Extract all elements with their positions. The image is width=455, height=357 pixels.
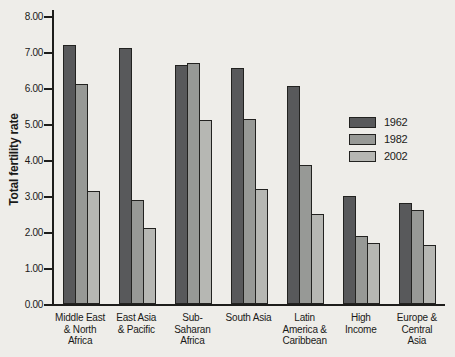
y-tick-label: 1.00 [13,263,43,275]
bar-2002-category-3 [199,120,212,304]
x-category-label-7: Europe &CentralAsia [389,312,445,347]
bar-2002-category-4 [255,189,268,304]
y-tick-label: 8.00 [13,11,43,23]
x-category-label-3: Sub-SaharanAfrica [164,312,220,347]
bar-group-3 [166,63,222,304]
bar-2002-category-1 [87,191,100,304]
y-tick-mark [44,88,52,90]
x-category-label-1: Middle East& NorthAfrica [52,312,108,347]
y-tick-mark [44,268,52,270]
bar-2002-category-5 [311,214,324,304]
legend-label-1982: 1982 [384,133,407,145]
y-tick-mark [44,160,52,162]
y-tick-label: 2.00 [13,227,43,239]
bar-2002-category-7 [423,245,436,304]
x-category-label-5: LatinAmerica &Caribbean [277,312,333,347]
y-tick-label: 0.00 [13,299,43,311]
legend: 196219822002 [349,116,407,167]
bar-group-5 [277,86,333,304]
y-tick-mark [44,232,52,234]
bar-2002-category-6 [367,243,380,304]
bar-group-2 [110,48,166,304]
y-tick-mark [44,304,52,306]
y-tick-mark [44,52,52,54]
y-tick-mark [44,196,52,198]
x-category-label-4: South Asia [220,312,276,347]
x-category-label-6: HighIncome [333,312,389,347]
bar-2002-category-2 [143,228,156,304]
bar-group-1 [54,45,110,304]
legend-label-1962: 1962 [384,116,407,128]
legend-swatch-1962 [349,117,376,128]
legend-row-1982: 1982 [349,133,407,145]
legend-swatch-2002 [349,151,376,162]
y-tick-label: 6.00 [13,83,43,95]
y-tick-label: 3.00 [13,191,43,203]
legend-row-1962: 1962 [349,116,407,128]
y-tick-mark [44,16,52,18]
y-tick-label: 5.00 [13,119,43,131]
legend-row-2002: 2002 [349,150,407,162]
fertility-rate-bar-chart: Total fertility rate 0.001.002.003.004.0… [0,0,455,357]
x-category-label-2: East Asia& Pacific [108,312,164,347]
legend-label-2002: 2002 [384,150,407,162]
bar-group-7 [389,203,445,304]
y-tick-label: 4.00 [13,155,43,167]
legend-swatch-1982 [349,134,376,145]
y-tick-mark [44,124,52,126]
bar-group-6 [333,196,389,304]
x-axis-category-labels: Middle East& NorthAfricaEast Asia& Pacif… [52,312,445,347]
y-tick-label: 7.00 [13,47,43,59]
bar-group-4 [222,68,278,304]
